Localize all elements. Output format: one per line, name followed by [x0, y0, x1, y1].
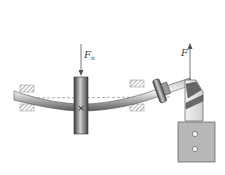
shaft-diagram: × Fn F — [0, 0, 225, 175]
end-force-arrow: F — [180, 43, 193, 80]
drive-head — [185, 80, 203, 121]
gear: × — [74, 77, 88, 134]
mount-hole-icon — [192, 146, 197, 151]
motor-block — [178, 122, 215, 162]
gear-force-label: Fn — [83, 49, 95, 61]
mount-hole-icon — [192, 131, 197, 136]
end-force-label: F — [180, 47, 189, 58]
gear-force-arrow: Fn — [79, 44, 95, 76]
gear-center-marker: × — [77, 103, 85, 113]
coupling — [152, 76, 172, 103]
